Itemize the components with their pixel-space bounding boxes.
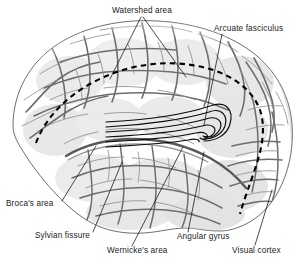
label-visual-cortex: Visual cortex — [232, 246, 281, 255]
label-watershed-area: Watershed area — [112, 6, 172, 15]
brain-illustration — [0, 21, 299, 264]
cortex-texture — [0, 22, 299, 264]
label-arcuate-fasciculus: Arcuate fasciculus — [214, 24, 283, 33]
label-angular-gyrus: Angular gyrus — [177, 232, 229, 241]
label-sylvian-fissure: Sylvian fissure — [35, 231, 90, 240]
brain-diagram-svg: Watershed area Arcuate fasciculus Broca'… — [0, 0, 299, 264]
brain-anatomy-figure: Watershed area Arcuate fasciculus Broca'… — [0, 0, 299, 264]
label-brocas-area: Broca's area — [6, 199, 54, 208]
label-wernickes-area: Wernicke's area — [107, 246, 168, 255]
